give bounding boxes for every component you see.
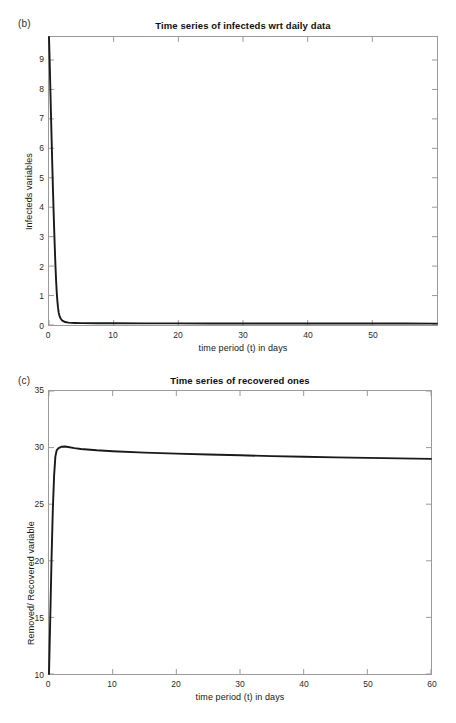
plot-area-c — [48, 390, 432, 675]
x-tick-label: 30 — [235, 679, 244, 689]
y-tick-label: 10 — [18, 670, 44, 680]
x-tick-label: 30 — [238, 330, 247, 340]
y-tick-label: 6 — [18, 143, 44, 153]
y-tick-label: 2 — [18, 262, 44, 272]
series-line — [49, 37, 437, 324]
y-tick-label: 30 — [18, 442, 44, 452]
x-tick-label: 10 — [107, 679, 116, 689]
chart-panel-b: (b) Time series of infecteds wrt daily d… — [0, 0, 456, 360]
plot-lines-c — [49, 391, 431, 674]
y-tick-label: 15 — [18, 613, 44, 623]
x-tick-label: 0 — [46, 679, 51, 689]
x-tick-label: 40 — [303, 330, 312, 340]
y-tick-label: 35 — [18, 385, 44, 395]
panel-tag-b: (b) — [18, 18, 31, 29]
y-axis-label-b: Infecteds variables — [24, 153, 34, 230]
y-tick-label: 1 — [18, 291, 44, 301]
x-tick-label: 20 — [173, 330, 182, 340]
y-axis-label-c: Removed/ Recovered variable — [26, 521, 36, 645]
x-tick-label: 50 — [363, 679, 372, 689]
y-tick-label: 4 — [18, 202, 44, 212]
series-line — [49, 446, 431, 674]
x-tick-label: 50 — [368, 330, 377, 340]
plot-lines-b — [49, 37, 437, 325]
x-axis-label-b: time period (t) in days — [48, 343, 438, 353]
y-tick-label: 9 — [18, 54, 44, 64]
chart-title-c: Time series of recovered ones — [48, 375, 432, 386]
y-tick-label: 7 — [18, 113, 44, 123]
x-tick-label: 20 — [171, 679, 180, 689]
y-tick-label: 20 — [18, 556, 44, 566]
chart-title-b: Time series of infecteds wrt daily data — [48, 20, 438, 31]
x-tick-label: 60 — [427, 679, 436, 689]
y-tick-label: 5 — [18, 173, 44, 183]
x-tick-label: 10 — [108, 330, 117, 340]
x-tick-label: 40 — [299, 679, 308, 689]
figure-container: (b) Time series of infecteds wrt daily d… — [0, 0, 456, 723]
x-axis-label-c: time period (t) in days — [48, 692, 432, 702]
y-tick-label: 25 — [18, 499, 44, 509]
chart-panel-c: (c) Time series of recovered ones Remove… — [0, 360, 456, 723]
plot-area-b — [48, 36, 438, 326]
y-tick-label: 0 — [18, 321, 44, 331]
x-tick-label: 0 — [46, 330, 51, 340]
y-tick-label: 3 — [18, 232, 44, 242]
y-tick-label: 8 — [18, 84, 44, 94]
